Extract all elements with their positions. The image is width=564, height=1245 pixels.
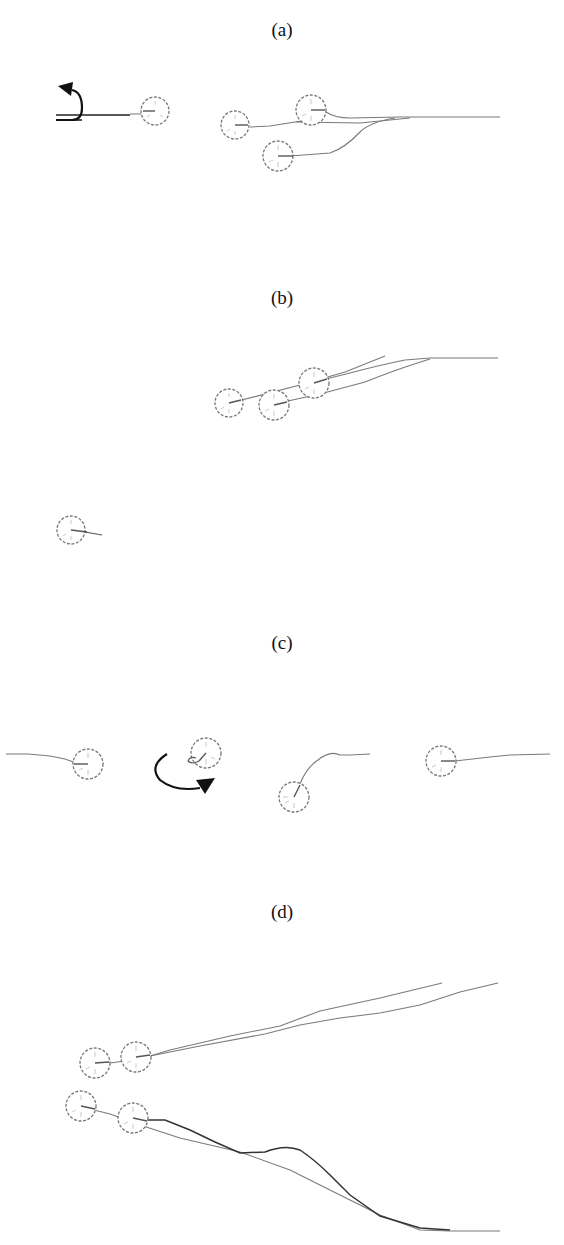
trajectory xyxy=(110,983,442,1063)
trajectory xyxy=(6,754,76,763)
trajectory xyxy=(314,358,498,382)
trajectory xyxy=(145,1120,450,1230)
panel-c: (c) xyxy=(0,600,564,840)
panel-c-figure xyxy=(0,600,564,840)
panel-b: (b) xyxy=(0,270,564,590)
robot-marker xyxy=(263,141,293,171)
robot-marker xyxy=(259,390,289,420)
u-turn-arrow-icon xyxy=(56,82,148,120)
robot-marker xyxy=(57,516,102,544)
panel-d-figure xyxy=(0,870,564,1245)
robot-marker xyxy=(121,1042,151,1072)
robot-marker xyxy=(426,746,456,776)
robot-marker xyxy=(66,1091,96,1121)
trajectory xyxy=(150,983,498,1056)
panel-a: (a) xyxy=(0,0,564,260)
robot-marker xyxy=(299,368,329,398)
robot-marker xyxy=(73,749,103,779)
robot-marker xyxy=(221,111,249,139)
robot-marker xyxy=(80,1048,110,1078)
trajectory xyxy=(326,112,500,118)
panel-b-figure xyxy=(0,270,564,590)
robot-marker xyxy=(279,782,309,812)
panel-a-figure xyxy=(0,0,564,260)
trajectory xyxy=(455,754,550,761)
panel-d: (d) xyxy=(0,870,564,1245)
robot-marker xyxy=(188,738,221,768)
robot-marker xyxy=(296,95,326,125)
robot-marker xyxy=(141,97,169,125)
trajectory xyxy=(300,753,370,784)
robot-marker xyxy=(215,389,243,417)
trajectory xyxy=(274,359,430,404)
robot-marker xyxy=(118,1103,148,1133)
